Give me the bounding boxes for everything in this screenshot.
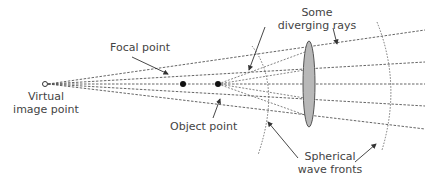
object-point-label: Object point — [170, 120, 237, 133]
diverging-rays-line1: Some — [262, 6, 372, 19]
wave-fronts-line2: wave fronts — [290, 163, 370, 176]
wavefront-outer — [377, 22, 391, 150]
virtual-image-line2: image point — [8, 103, 84, 116]
lens — [303, 41, 315, 127]
focal-point-label: Focal point — [110, 41, 170, 54]
object-point-arrow — [213, 99, 220, 118]
diagram-canvas: Focal point Some diverging rays Virtual … — [0, 0, 428, 185]
wave-fronts-line1: Spherical — [290, 150, 370, 163]
wavefront-inner — [252, 46, 269, 155]
virtual-image-point — [43, 82, 48, 87]
wave-fronts-label: Spherical wave fronts — [290, 150, 370, 176]
focal-point-dot — [180, 81, 186, 87]
diverging-rays — [48, 30, 425, 129]
virtual-image-label: Virtual image point — [8, 90, 84, 116]
diverging-rays-label: Some diverging rays — [262, 6, 372, 32]
virtual-image-line1: Virtual — [8, 90, 84, 103]
diverging-rays-line2: diverging rays — [262, 19, 372, 32]
diverging-rays-arrow-left — [249, 27, 265, 70]
object-point-dot — [215, 81, 221, 87]
